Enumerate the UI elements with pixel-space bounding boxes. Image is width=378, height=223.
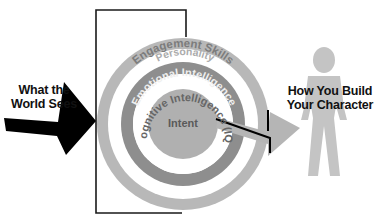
left-caption-line1: What the	[4, 83, 84, 97]
left-caption-line2: World Sees	[4, 97, 84, 111]
right-caption-line2: Your Character	[282, 98, 378, 112]
label-intent: Intent	[168, 117, 198, 129]
right-caption-line1: How You Build	[282, 84, 378, 98]
right-caption: How You Build Your Character	[282, 84, 378, 112]
left-caption: What the World Sees	[4, 83, 84, 111]
